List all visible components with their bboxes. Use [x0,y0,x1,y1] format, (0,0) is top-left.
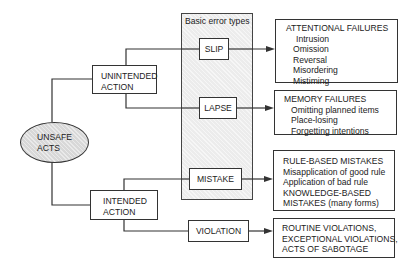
mistake-outcome-line: Misapplication of good rule [283,167,394,178]
violation-outcome-line: EXCEPTIONAL VIOLATIONS, [282,234,394,245]
violation-outcome-line: ROUTINE VIOLATIONS, [282,223,394,234]
attentional-item: Reversal [286,55,397,66]
slip-node: SLIP [199,38,229,60]
mistake-outcome-line: MISTAKES (many forms) [283,198,394,209]
violation-outcome-line: ACTS OF SABOTAGE [282,244,394,255]
attentional-item: Mistiming [286,76,397,87]
attentional-title: ATTENTIONAL FAILURES [286,23,397,34]
intended-label-1: INTENDED [103,196,157,207]
unsafe-acts-label-1: UNSAFE [37,132,72,143]
mistake-outcome-line: Application of bad rule [283,177,394,188]
attentional-item: Intrusion [286,34,397,45]
unintended-action-node: UNINTENDED ACTION [92,65,157,94]
violation-label: VIOLATION [196,226,241,237]
unintended-label-1: UNINTENDED [101,71,156,82]
slip-label: SLIP [205,44,224,55]
attentional-item: Misordering [286,65,397,76]
mistake-outcome-line: KNOWLEDGE-BASED [283,188,394,199]
unsafe-acts-label-2: ACTS [37,143,72,154]
violations-outcome-box: ROUTINE VIOLATIONS, EXCEPTIONAL VIOLATIO… [273,218,395,258]
memory-item: Place-losing [284,115,396,126]
memory-item: Omitting planned items [284,105,396,116]
unsafe-acts-node: UNSAFE ACTS [20,122,89,163]
intended-label-2: ACTION [103,207,157,218]
violation-node: VIOLATION [188,220,249,242]
attentional-item: Omission [286,44,397,55]
attentional-failures-box: ATTENTIONAL FAILURES Intrusion Omission … [275,19,398,83]
memory-failures-box: MEMORY FAILURES Omitting planned items P… [274,90,397,135]
rule-knowledge-mistakes-box: RULE-BASED MISTAKES Misapplication of go… [273,150,395,211]
lapse-label: LAPSE [204,103,232,114]
mistake-node: MISTAKE [189,168,242,190]
memory-title: MEMORY FAILURES [284,94,396,105]
mistake-label: MISTAKE [197,174,234,185]
mistake-outcome-line: RULE-BASED MISTAKES [283,156,394,167]
unintended-label-2: ACTION [101,82,156,93]
intended-action-node: INTENDED ACTION [90,190,158,220]
lapse-node: LAPSE [199,97,237,119]
memory-item: Forgetting intentions [284,126,396,137]
